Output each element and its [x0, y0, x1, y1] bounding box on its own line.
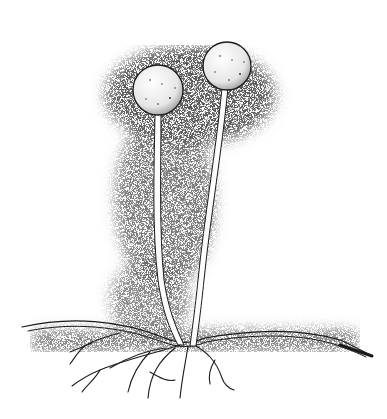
left-sporangium — [133, 65, 183, 115]
mold-illustration — [0, 0, 387, 419]
right-sporangium — [203, 42, 251, 90]
